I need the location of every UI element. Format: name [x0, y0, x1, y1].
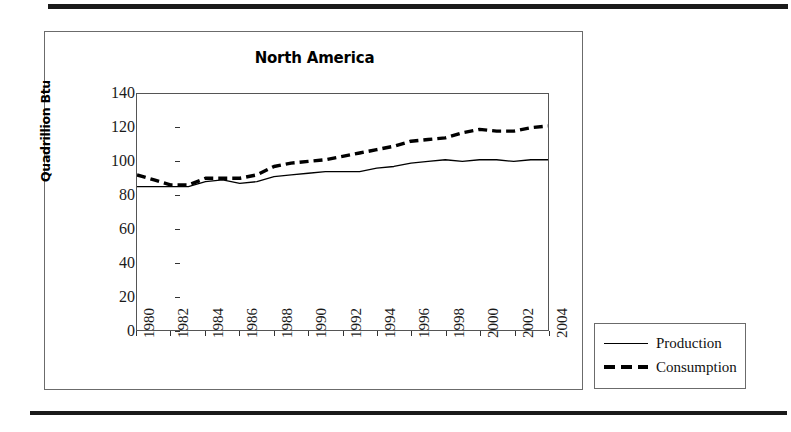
plot-area: [136, 93, 549, 331]
x-tick-mark: [480, 331, 481, 336]
legend-item-production: Production: [604, 333, 722, 353]
legend-label: Production: [656, 336, 722, 351]
line-solid-icon: [604, 337, 648, 349]
y-axis-ticks: 020406080100120140: [89, 87, 135, 337]
series-line-consumption: [137, 126, 548, 185]
line-dashed-icon: [604, 361, 648, 373]
x-tick-label: 2002: [521, 308, 536, 338]
x-tick-mark: [411, 331, 412, 336]
x-tick-mark: [205, 331, 206, 336]
x-tick-label: 1988: [280, 308, 295, 338]
bottom-rule: [30, 411, 787, 415]
y-tick-label: 20: [89, 289, 135, 305]
x-tick-mark: [170, 331, 171, 336]
y-tick-label: 80: [89, 187, 135, 203]
legend: Production Consumption: [594, 323, 746, 389]
x-tick-label: 1992: [349, 308, 364, 338]
x-tick-mark: [446, 331, 447, 336]
x-tick-label: 1986: [245, 308, 260, 338]
y-tick-label: 120: [89, 119, 135, 135]
x-tick-label: 1994: [383, 308, 398, 338]
x-tick-label: 1982: [176, 308, 191, 338]
x-tick-mark: [515, 331, 516, 336]
x-tick-mark: [549, 331, 550, 336]
y-tick-label: 100: [89, 153, 135, 169]
y-tick-label: 60: [89, 221, 135, 237]
y-tick-label: 40: [89, 255, 135, 271]
y-tick-label: 140: [89, 85, 135, 101]
legend-label: Consumption: [656, 360, 737, 375]
x-tick-mark: [308, 331, 309, 336]
y-axis-title: Quadrillion Btu: [38, 22, 53, 182]
x-tick-label: 2004: [555, 308, 570, 338]
x-tick-label: 1996: [417, 308, 432, 338]
chart-frame: North America Quadrillion Btu 0204060801…: [44, 31, 583, 390]
chart-title: North America: [45, 49, 584, 67]
x-tick-label: 1998: [452, 308, 467, 338]
y-tick-label: 0: [89, 323, 135, 339]
figure-page: North America Quadrillion Btu 0204060801…: [0, 0, 791, 432]
x-tick-mark: [239, 331, 240, 336]
plot-lines: [137, 94, 548, 330]
x-axis-ticks: 1980198219841986198819901992199419961998…: [136, 331, 549, 401]
legend-item-consumption: Consumption: [604, 357, 737, 377]
x-tick-mark: [274, 331, 275, 336]
x-tick-label: 1984: [211, 308, 226, 338]
x-tick-mark: [136, 331, 137, 336]
x-tick-mark: [377, 331, 378, 336]
top-rule: [48, 4, 788, 9]
x-tick-label: 2000: [486, 308, 501, 338]
x-tick-mark: [343, 331, 344, 336]
x-tick-label: 1990: [314, 308, 329, 338]
x-tick-label: 1980: [142, 308, 157, 338]
